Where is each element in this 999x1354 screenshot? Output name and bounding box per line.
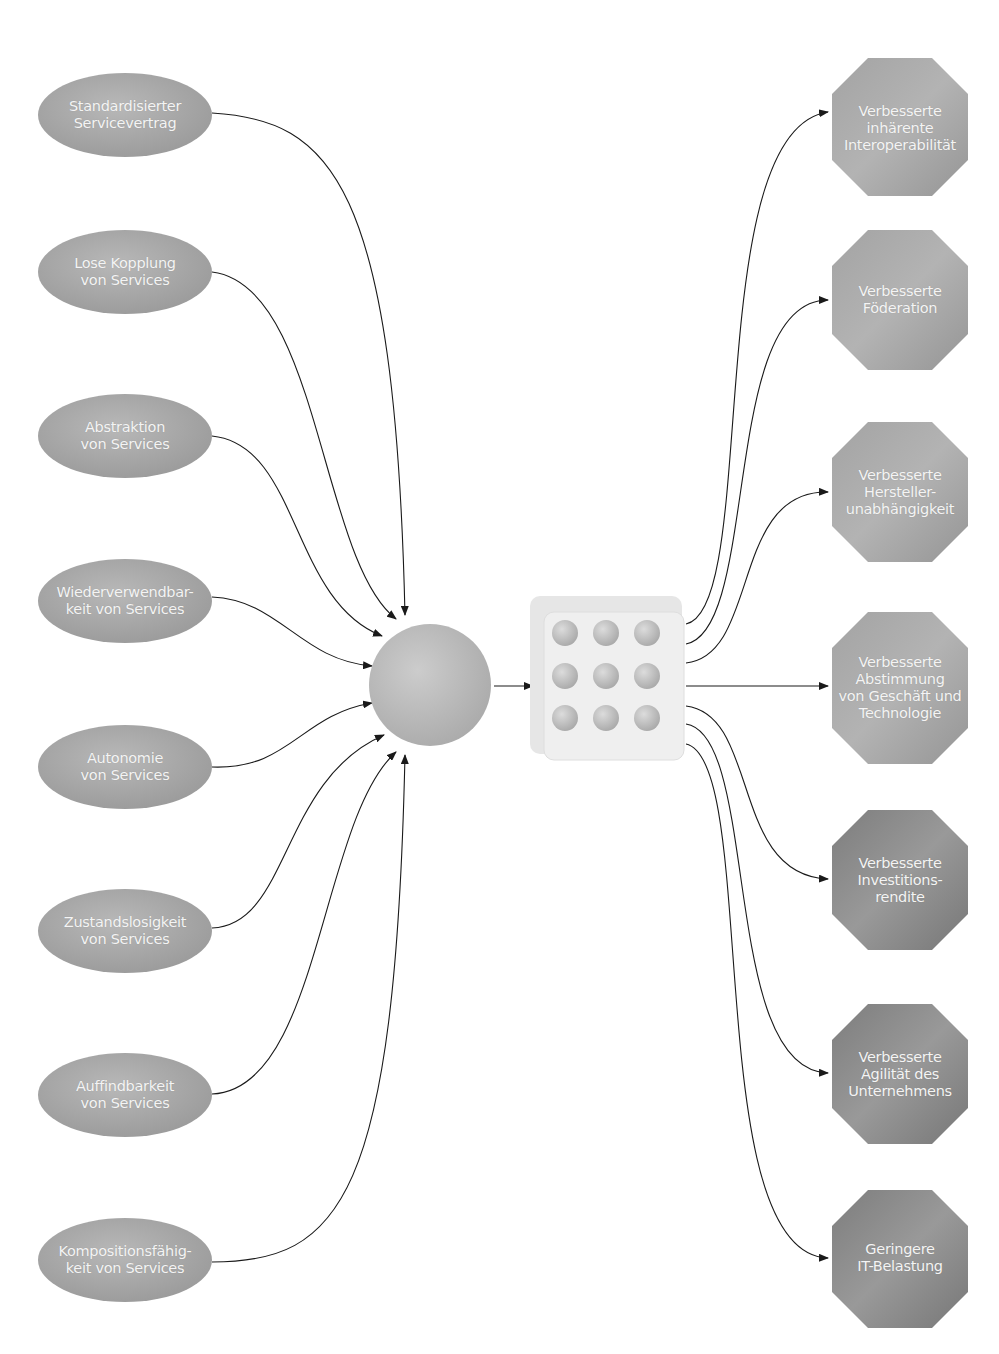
principle-ellipse bbox=[38, 559, 212, 643]
outcome-nodes bbox=[832, 58, 968, 1328]
outcome-octagon bbox=[832, 58, 968, 196]
principle-ellipse bbox=[38, 394, 212, 478]
outcome-octagon bbox=[832, 230, 968, 370]
principle-nodes bbox=[38, 73, 212, 1302]
principle-ellipse bbox=[38, 1218, 212, 1302]
outcome-octagon bbox=[832, 422, 968, 562]
principle-ellipse bbox=[38, 889, 212, 973]
soa-diagram bbox=[0, 0, 999, 1354]
outcome-octagon bbox=[832, 1190, 968, 1328]
outcome-octagon bbox=[832, 810, 968, 950]
principle-ellipse bbox=[38, 73, 212, 157]
outcome-octagon bbox=[832, 1004, 968, 1144]
connector-lines bbox=[212, 112, 828, 1262]
principle-ellipse bbox=[38, 1053, 212, 1137]
principle-ellipse bbox=[38, 725, 212, 809]
sphere-icon bbox=[369, 624, 491, 746]
service-grid-icon bbox=[530, 596, 684, 760]
outcome-octagon bbox=[832, 612, 968, 764]
principle-ellipse bbox=[38, 230, 212, 314]
